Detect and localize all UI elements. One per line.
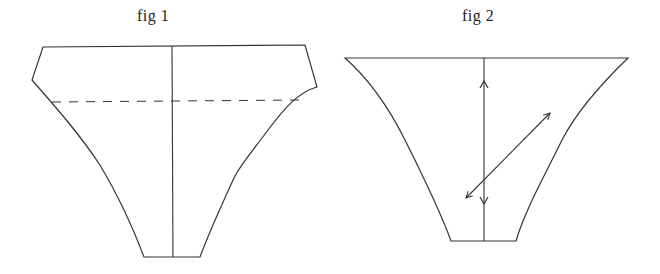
fig-1-center-line xyxy=(172,46,173,257)
diagram-svg xyxy=(0,0,660,274)
fig-1-outline xyxy=(32,45,317,257)
fig-1 xyxy=(32,45,317,257)
fig-2 xyxy=(345,58,628,241)
fig-1-dashed-line xyxy=(52,100,300,102)
diagram-canvas: fig 1 fig 2 xyxy=(0,0,660,274)
fig-2-bias-arrow xyxy=(466,113,550,198)
